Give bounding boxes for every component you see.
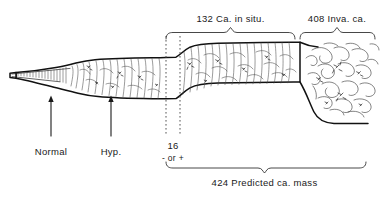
label-stage-normal: Normal (35, 146, 67, 157)
label-ca-in-situ: 132 Ca. in situ. (196, 13, 264, 24)
duct-outline-group (10, 42, 300, 99)
bottom-brace-group (166, 162, 366, 173)
stage-arrow-group (48, 96, 113, 137)
label-predicted-ca-mass: 424 Predicted ca. mass (212, 177, 318, 188)
figure-container: 132 Ca. in situ. 408 Inva. ca. Normal Hy… (0, 0, 383, 199)
arrow-hyperplasia (108, 96, 113, 137)
duct-progression-diagram: 132 Ca. in situ. 408 Inva. ca. Normal Hy… (0, 0, 383, 199)
invasive-carcinoma-mass (300, 42, 379, 123)
brace-predicted-mass (166, 162, 366, 173)
arrow-normal (48, 96, 53, 137)
invasive-mass-edge-top (300, 42, 318, 47)
label-atypia-sign: - or + (162, 153, 184, 163)
label-invasive-ca: 408 Inva. ca. (308, 13, 366, 24)
top-brace-group (166, 28, 375, 40)
label-stage-hyperplasia: Hyp. (101, 146, 122, 157)
brace-ca-in-situ (166, 28, 295, 40)
brace-invasive-ca (300, 28, 375, 40)
label-atypia-count: 16 (167, 140, 178, 151)
